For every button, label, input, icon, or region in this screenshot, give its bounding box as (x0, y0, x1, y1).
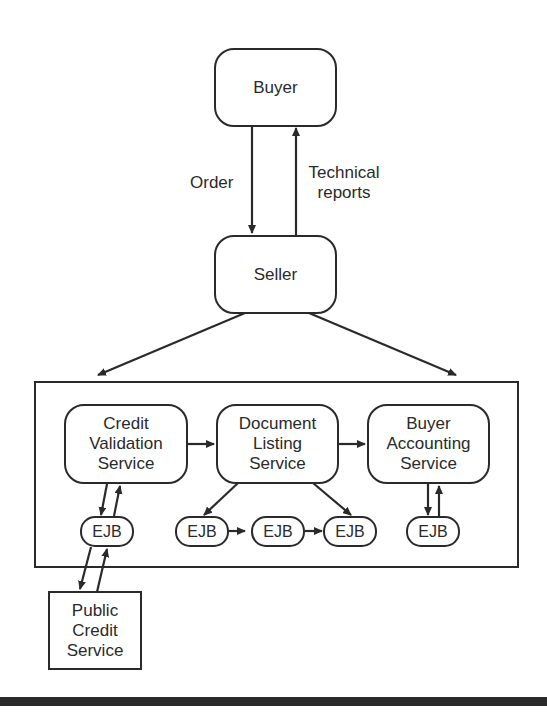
seller-node-label: Seller (254, 265, 297, 285)
order-edge-label: Order (190, 173, 233, 193)
ejb-node-listing-3: EJB (323, 516, 377, 547)
buyer-node-label: Buyer (253, 78, 297, 98)
document-listing-service-node: Document Listing Service (216, 404, 339, 484)
seller-node: Seller (214, 235, 337, 314)
technical-reports-edge-label: Technical reports (304, 163, 384, 203)
ejb-node-accounting: EJB (406, 516, 460, 547)
bottom-divider (0, 697, 547, 706)
public-credit-service-node: Public Credit Service (48, 591, 142, 670)
credit-validation-service-node: Credit Validation Service (64, 404, 188, 484)
ejb-node-listing-1: EJB (175, 516, 229, 547)
buyer-node: Buyer (214, 48, 337, 127)
buyer-accounting-service-node: Buyer Accounting Service (367, 404, 490, 484)
ejb-node-credit: EJB (80, 516, 134, 547)
ejb-node-listing-2: EJB (251, 516, 305, 547)
